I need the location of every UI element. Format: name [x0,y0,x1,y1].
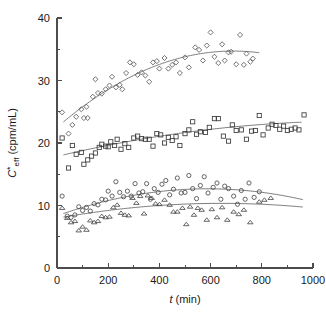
data-point-diamond [93,77,98,82]
data-point-diamond [60,110,65,115]
x-tick-label: 800 [253,274,271,286]
data-point-circle [171,187,175,191]
data-point-square [234,128,238,132]
data-point-square [82,162,86,166]
data-point-diamond [208,30,213,35]
data-point-circle [198,183,202,187]
data-point-square [162,141,166,145]
axes-group [57,18,313,268]
y-tick-label: 40 [38,12,50,24]
y-axis-label: C*eff (cpm/mL) [5,108,21,178]
data-point-triangle [187,205,193,208]
data-points-group [59,30,306,232]
fit-curve-triangle [63,203,302,217]
data-point-triangle [80,225,86,228]
data-point-diamond [110,74,115,79]
series-square [60,113,306,170]
y-tick-label: 10 [38,200,50,212]
data-point-circle [223,184,227,188]
data-point-triangle [241,208,247,211]
data-point-triangle [162,198,168,201]
data-point-triangle [248,220,254,223]
data-point-circle [152,187,156,191]
data-point-square [203,130,207,134]
svg-text:C*eff (cpm/mL): C*eff (cpm/mL) [5,108,21,178]
data-point-square [239,128,243,132]
data-point-square [244,137,248,141]
data-point-diamond [212,54,217,59]
data-point-circle [219,197,223,201]
data-point-diamond [143,73,148,78]
data-point-triangle [204,218,210,221]
data-point-triangle [231,210,237,213]
data-point-diamond [124,70,129,75]
data-point-square [257,113,261,117]
data-point-diamond [162,55,167,60]
data-point-diamond [120,87,125,92]
data-point-circle [110,194,114,198]
data-point-diamond [220,42,225,47]
data-point-triangle [88,218,94,221]
x-tick-label: 0 [54,274,60,286]
x-axis-ticks [57,263,313,268]
data-point-diamond [166,66,171,71]
data-point-square [66,166,70,170]
y-axis-ticks [57,18,62,268]
data-point-circle [145,182,149,186]
data-point-triangle [224,218,230,221]
data-point-triangle [262,198,268,201]
y-tick-label: 20 [38,137,50,149]
data-point-triangle [76,228,82,231]
data-point-diamond [74,114,79,119]
series-diamond [60,30,256,136]
data-point-triangle [268,196,274,199]
data-point-circle [194,197,198,201]
data-point-diamond [216,60,221,65]
x-axis-label: t (min) [169,293,200,305]
data-point-triangle [214,215,220,218]
data-point-triangle [191,213,197,216]
data-point-diamond [66,131,71,136]
data-point-triangle [95,219,101,222]
data-point-triangle [107,215,113,218]
x-tick-label: 600 [201,274,219,286]
data-point-square [119,147,123,151]
data-point-circle [235,202,239,206]
data-point-diamond [147,79,152,84]
data-point-circle [160,182,164,186]
data-point-circle [81,208,85,212]
data-point-triangle [184,222,190,225]
data-point-circle [187,173,191,177]
data-point-triangle [114,203,120,206]
data-point-diamond [204,43,209,48]
data-point-triangle [145,193,151,196]
y-tick-label: 30 [38,75,50,87]
data-point-triangle [118,211,124,214]
data-point-diamond [222,58,227,63]
data-point-diamond [157,66,162,71]
data-point-square [302,113,306,117]
x-tick-label: 400 [150,274,168,286]
chart-figure: 02004006008001000 010203040 t (min) C*ef… [0,0,326,314]
x-tick-label: 1000 [301,274,325,286]
data-point-circle [247,181,251,185]
data-point-square [60,136,64,140]
data-point-square [221,134,225,138]
data-point-circle [243,197,247,201]
data-point-circle [106,189,110,193]
data-point-triangle [195,206,201,209]
data-point-circle [202,175,206,179]
data-point-circle [168,193,172,197]
data-point-circle [175,176,179,180]
data-point-triangle [72,219,78,222]
data-point-square [230,123,234,127]
x-axis-tick-labels: 02004006008001000 [54,274,325,286]
data-point-square [151,144,155,148]
data-point-diamond [200,58,205,63]
y-tick-label: 0 [44,262,50,274]
data-point-diamond [177,70,182,75]
data-point-circle [114,180,118,184]
data-point-circle [252,195,256,199]
data-point-circle [206,191,210,195]
data-point-square [178,143,182,147]
